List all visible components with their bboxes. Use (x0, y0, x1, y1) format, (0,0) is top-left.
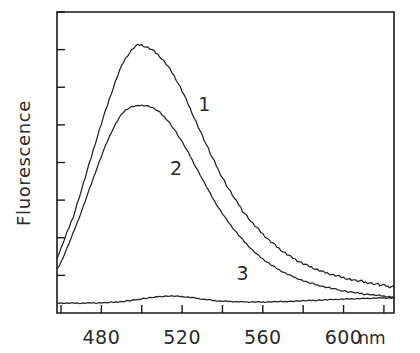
y-axis-title: Fluorescence (13, 100, 34, 226)
axes-frame (57, 12, 394, 313)
curve-label-2: 2 (170, 157, 182, 179)
fluorescence-spectra-figure: 123 480520560600 nm Fluorescence (0, 0, 420, 353)
axis-frame-path (57, 12, 394, 313)
x-axis-tick-labels: 480520560600 (83, 326, 363, 348)
x-axis-tick-label: 600 (325, 326, 363, 348)
spectra-curves (57, 44, 394, 303)
x-axis-unit-label: nm (358, 328, 385, 348)
curve-annotations: 123 (170, 93, 249, 284)
curve-label-1: 1 (198, 93, 210, 115)
spectrum-curve-2 (57, 105, 394, 297)
x-axis-tick-label: 560 (244, 326, 282, 348)
x-axis-ticks (61, 305, 384, 313)
curve-label-3: 3 (237, 262, 249, 284)
x-axis-tick-label: 520 (163, 326, 201, 348)
y-axis-ticks (57, 12, 65, 275)
spectrum-curve-1 (57, 44, 394, 288)
plot-canvas: 123 480520560600 nm Fluorescence (0, 0, 420, 353)
x-axis-tick-label: 480 (83, 326, 121, 348)
spectrum-curve-3 (57, 296, 394, 304)
